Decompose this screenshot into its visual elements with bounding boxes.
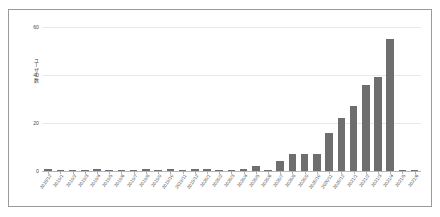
- bar-slot: [372, 27, 384, 171]
- x-tick-label: 2021/1: [346, 173, 358, 187]
- y-tick-label: 60: [33, 24, 39, 30]
- x-tick-label: 2021/6: [407, 173, 419, 187]
- bar-slot: [79, 27, 91, 171]
- x-label-slot: 2020/2: [213, 172, 225, 206]
- x-label-slot: 2020/9: [299, 172, 311, 206]
- x-label-slot: 2019/2: [66, 172, 78, 206]
- x-tick-label: 2019/1: [53, 173, 65, 187]
- x-label-slot: 2020/8: [286, 172, 298, 206]
- bar-slot: [250, 27, 262, 171]
- x-tick-label: 2019/12: [186, 173, 200, 189]
- x-label-slot: 2019/6: [115, 172, 127, 206]
- x-label-slot: 2021/2: [360, 172, 372, 206]
- bar[interactable]: [350, 106, 358, 171]
- x-tick-label: 2019/11: [174, 173, 187, 189]
- bar-slot: [396, 27, 408, 171]
- bar-slot: [164, 27, 176, 171]
- x-label-slot: 2020/10: [311, 172, 323, 206]
- x-tick-label: 2020/4: [236, 173, 248, 187]
- x-label-slot: 2019/4: [91, 172, 103, 206]
- x-tick-label: 2020/10: [308, 173, 322, 189]
- bar-slot: [323, 27, 335, 171]
- x-label-slot: 2019/3: [79, 172, 91, 206]
- y-tick-label: 0: [36, 168, 39, 174]
- bar-slot: [311, 27, 323, 171]
- bar-slot: [225, 27, 237, 171]
- bar-slot: [347, 27, 359, 171]
- bar-slot: [409, 27, 421, 171]
- bar[interactable]: [362, 85, 370, 171]
- x-tick-label: 2021/5: [395, 173, 407, 187]
- plot-area: 0204060: [42, 27, 421, 171]
- x-tick-label: 2020/12: [332, 173, 346, 189]
- bar[interactable]: [325, 133, 333, 171]
- bar-slot: [128, 27, 140, 171]
- x-label-slot: 2021/1: [347, 172, 359, 206]
- x-tick-label: 2020/7: [273, 173, 285, 187]
- bar[interactable]: [276, 161, 284, 171]
- x-label-slot: 2019/10: [164, 172, 176, 206]
- bar-slot: [176, 27, 188, 171]
- x-tick-label: 2020/8: [285, 173, 297, 187]
- x-tick-label: 2018/12: [39, 173, 53, 189]
- bar-slot: [360, 27, 372, 171]
- bar-slot: [140, 27, 152, 171]
- x-axis-tick-labels: 2018/122019/12019/22019/32019/42019/5201…: [42, 172, 421, 206]
- x-label-slot: 2019/12: [189, 172, 201, 206]
- y-tick-label: 20: [33, 120, 39, 126]
- x-tick-label: 2021/3: [370, 173, 382, 187]
- bar-chart: ユーザー数 0204060 2018/122019/12019/22019/32…: [9, 10, 431, 206]
- bar-slot: [152, 27, 164, 171]
- bar[interactable]: [289, 154, 297, 171]
- x-label-slot: 2019/1: [54, 172, 66, 206]
- x-tick-label: 2019/6: [114, 173, 126, 187]
- bar-slot: [54, 27, 66, 171]
- x-label-slot: 2021/3: [372, 172, 384, 206]
- bar-slot: [66, 27, 78, 171]
- x-tick-label: 2020/3: [224, 173, 236, 187]
- x-label-slot: 2020/6: [262, 172, 274, 206]
- bar-slot: [189, 27, 201, 171]
- x-label-slot: 2021/5: [396, 172, 408, 206]
- x-tick-label: 2019/3: [77, 173, 89, 187]
- x-tick-label: 2019/4: [89, 173, 101, 187]
- x-tick-label: 2019/2: [65, 173, 77, 187]
- x-label-slot: 2020/3: [225, 172, 237, 206]
- x-label-slot: 2020/1: [201, 172, 213, 206]
- x-label-slot: 2020/12: [335, 172, 347, 206]
- x-label-slot: 2019/7: [128, 172, 140, 206]
- x-tick-label: 2021/2: [358, 173, 370, 187]
- x-label-slot: 2020/4: [238, 172, 250, 206]
- x-label-slot: 2018/12: [42, 172, 54, 206]
- bar[interactable]: [386, 39, 394, 171]
- x-label-slot: 2019/8: [140, 172, 152, 206]
- bar-slot: [262, 27, 274, 171]
- bar-slot: [335, 27, 347, 171]
- x-label-slot: 2019/11: [176, 172, 188, 206]
- bar-slot: [42, 27, 54, 171]
- x-label-slot: 2021/6: [409, 172, 421, 206]
- bar[interactable]: [301, 154, 309, 171]
- x-tick-label: 2020/1: [199, 173, 211, 187]
- chart-frame: ユーザー数 0204060 2018/122019/12019/22019/32…: [8, 9, 432, 207]
- bar-slot: [286, 27, 298, 171]
- y-axis-title: ユーザー数: [27, 58, 38, 83]
- bar[interactable]: [374, 77, 382, 171]
- bar-slot: [384, 27, 396, 171]
- x-tick-label: 2019/5: [102, 173, 114, 187]
- x-tick-label: 2019/7: [126, 173, 138, 187]
- bar-slot: [238, 27, 250, 171]
- bar[interactable]: [338, 118, 346, 171]
- x-label-slot: 2020/5: [250, 172, 262, 206]
- x-label-slot: 2019/9: [152, 172, 164, 206]
- x-tick-label: 2021/4: [383, 173, 395, 187]
- bar-slot: [103, 27, 115, 171]
- x-label-slot: 2020/7: [274, 172, 286, 206]
- x-tick-label: 2020/5: [248, 173, 260, 187]
- bar-slot: [213, 27, 225, 171]
- x-tick-label: 2020/2: [212, 173, 224, 187]
- x-tick-label: 2019/10: [161, 173, 175, 189]
- bar[interactable]: [313, 154, 321, 171]
- x-label-slot: 2019/5: [103, 172, 115, 206]
- x-label-slot: 2020/11: [323, 172, 335, 206]
